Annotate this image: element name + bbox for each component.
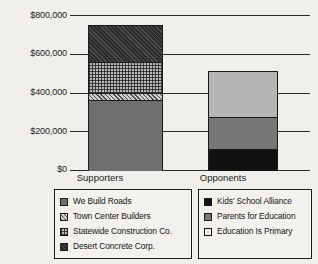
bar-segment-education-is-primary[interactable] (209, 72, 277, 118)
legend-item-parents-for-education[interactable]: Parents for Education (204, 209, 306, 224)
y-axis-tick-label-400000: $400,000 (30, 88, 67, 97)
legend-supporters: We Build Roads Town Center Builders Stat… (54, 189, 192, 259)
bar-segment-statewide-construction-co[interactable] (89, 63, 162, 94)
legend-opponents: Kids' School Alliance Parents for Educat… (198, 189, 312, 259)
bar-segment-we-build-roads[interactable] (89, 101, 162, 171)
x-axis-label-opponents: Opponents (183, 173, 263, 183)
y-axis-tick-label-800000: $800,000 (30, 11, 67, 20)
legend-swatch-icon-kids-school-alliance (204, 198, 212, 206)
legend-label-education-is-primary: Education Is Primary (217, 227, 292, 236)
legend-label-we-build-roads: We Build Roads (73, 197, 132, 206)
legend-item-statewide-construction-co[interactable]: Statewide Construction Co. (60, 224, 186, 239)
legend-label-kids-school-alliance: Kids' School Alliance (217, 197, 292, 206)
y-axis-tick-label-600000: $600,000 (30, 49, 67, 58)
bar-opponents[interactable] (208, 71, 278, 170)
legend-swatch-icon-desert-concrete-corp (60, 243, 68, 251)
x-axis-label-supporters: Supporters (60, 173, 140, 183)
legend-item-kids-school-alliance[interactable]: Kids' School Alliance (204, 194, 306, 209)
bar-segment-town-center-builders[interactable] (89, 94, 162, 102)
legend-label-parents-for-education: Parents for Education (217, 212, 295, 221)
legend-swatch-icon-education-is-primary (204, 228, 212, 236)
legend-item-education-is-primary[interactable]: Education Is Primary (204, 224, 306, 239)
legend-item-desert-concrete-corp[interactable]: Desert Concrete Corp. (60, 239, 186, 254)
legend-swatch-icon-town-center-builders (60, 213, 68, 221)
bar-segment-desert-concrete-corp[interactable] (89, 26, 162, 63)
legend-swatch-icon-we-build-roads (60, 198, 68, 206)
legend-swatch-icon-parents-for-education (204, 213, 212, 221)
bar-supporters[interactable] (88, 25, 163, 170)
legend-item-we-build-roads[interactable]: We Build Roads (60, 194, 186, 209)
plot-area (70, 15, 310, 170)
gridline-800000 (70, 15, 310, 16)
bar-segment-parents-for-education[interactable] (209, 118, 277, 150)
stacked-bar-chart: Amount contributed $800,000 $600,000 $40… (0, 0, 318, 264)
legend-label-desert-concrete-corp: Desert Concrete Corp. (73, 242, 155, 251)
bar-segment-kids-school-alliance[interactable] (209, 150, 277, 171)
legend-label-statewide-construction-co: Statewide Construction Co. (73, 227, 172, 236)
y-axis-tick-label-200000: $200,000 (30, 127, 67, 136)
legend-swatch-icon-statewide-construction-co (60, 228, 68, 236)
legend-label-town-center-builders: Town Center Builders (73, 212, 151, 221)
legend-item-town-center-builders[interactable]: Town Center Builders (60, 209, 186, 224)
